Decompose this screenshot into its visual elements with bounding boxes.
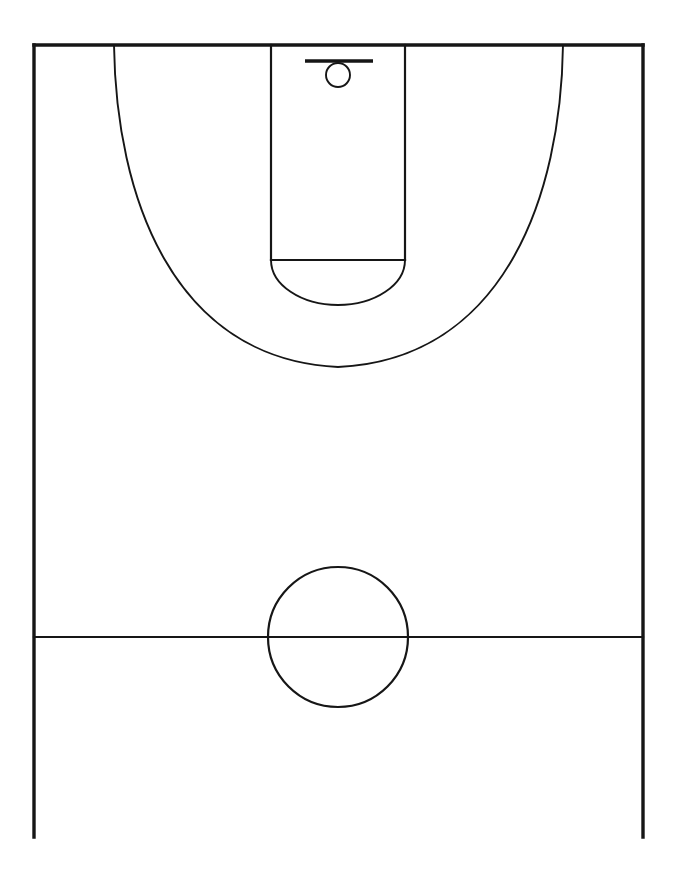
court-canvas (0, 0, 676, 878)
basketball-court-diagram (0, 0, 676, 878)
canvas-background (0, 0, 676, 878)
